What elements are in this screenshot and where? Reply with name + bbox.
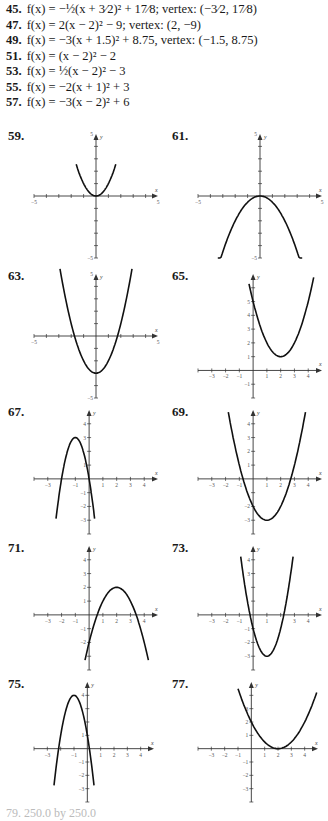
x-axis-arrow-icon	[312, 746, 318, 751]
svg-text:2: 2	[115, 482, 118, 488]
svg-text:−1: −1	[71, 752, 77, 758]
svg-text:−2: −2	[223, 373, 229, 379]
graph-69: 69.−3−2−112344321−2−3xy	[172, 404, 328, 538]
svg-text:−1: −1	[244, 381, 250, 387]
svg-text:−1: −1	[78, 759, 84, 765]
y-axis-arrow-icon	[87, 410, 92, 416]
svg-text:2: 2	[113, 752, 116, 758]
answer-45: 45.f(x) = −½(x + 3⁄2)² + 17⁄8; vertex: (…	[6, 2, 326, 18]
x-axis-arrow-icon	[316, 612, 322, 617]
svg-text:−1: −1	[242, 759, 248, 765]
parabola-curve	[228, 412, 305, 520]
x-axis-arrow-icon	[152, 194, 158, 199]
svg-text:4: 4	[247, 421, 250, 427]
svg-text:1: 1	[266, 373, 269, 379]
svg-text:−1: −1	[72, 618, 78, 624]
y-axis-arrow-icon	[85, 682, 90, 688]
svg-text:−1: −1	[80, 626, 86, 632]
x-axis-arrow-icon	[316, 194, 322, 199]
parabola-plot: −555−5xy	[8, 128, 164, 266]
svg-text:3: 3	[293, 618, 296, 624]
svg-text:−5: −5	[87, 395, 93, 401]
svg-text:−3: −3	[80, 517, 86, 523]
svg-text:4: 4	[143, 618, 146, 624]
svg-text:4: 4	[139, 752, 142, 758]
svg-text:−1: −1	[235, 752, 241, 758]
x-axis-arrow-icon	[316, 476, 322, 481]
svg-text:2: 2	[277, 752, 280, 758]
svg-text:−3: −3	[78, 786, 84, 792]
svg-text:x: x	[318, 470, 322, 476]
answer-53: 53.f(x) = ½(x − 2)² − 3	[6, 64, 326, 80]
answer-47: 47.f(x) = 2(x − 2)² − 9; vertex: (2, −9)	[6, 18, 326, 34]
svg-text:4: 4	[83, 557, 86, 563]
svg-text:3: 3	[247, 571, 250, 577]
y-axis-arrow-icon	[251, 546, 256, 552]
svg-text:3: 3	[293, 482, 296, 488]
graph-73: 73.−3−2−113443−1−2−3xy	[172, 540, 328, 674]
svg-text:4: 4	[247, 557, 250, 563]
svg-text:4: 4	[83, 421, 86, 427]
answer-51: 51.f(x) = (x − 2)² − 2	[6, 49, 326, 65]
answer-list: 45.f(x) = −½(x + 3⁄2)² + 17⁄8; vertex: (…	[6, 2, 326, 111]
svg-text:−2: −2	[80, 503, 86, 509]
svg-text:x: x	[318, 606, 322, 612]
svg-text:2: 2	[279, 482, 282, 488]
svg-text:2: 2	[83, 584, 86, 590]
svg-text:−1: −1	[72, 482, 78, 488]
svg-text:2: 2	[246, 719, 249, 725]
svg-text:−5: −5	[31, 339, 37, 345]
svg-text:−3: −3	[44, 752, 50, 758]
svg-text:−3: −3	[208, 752, 214, 758]
svg-text:1: 1	[99, 752, 102, 758]
svg-text:−2: −2	[242, 772, 248, 778]
svg-text:2: 2	[279, 373, 282, 379]
x-axis-arrow-icon	[152, 334, 158, 339]
svg-text:−2: −2	[244, 503, 250, 509]
svg-text:−2: −2	[223, 618, 229, 624]
footer-answer-79: 79. 250.0 by 250.0	[6, 806, 96, 821]
svg-text:−3: −3	[244, 653, 250, 659]
svg-text:−3: −3	[244, 517, 250, 523]
svg-text:x: x	[318, 361, 322, 367]
parabola-plot: −3−1123441−1−2−3xy	[8, 676, 164, 806]
svg-text:y: y	[263, 134, 267, 140]
svg-text:4: 4	[82, 692, 85, 698]
svg-text:1: 1	[83, 598, 86, 604]
graph-65: 65.−3−2−1123412345−1xy	[172, 268, 328, 402]
svg-text:−1: −1	[236, 482, 242, 488]
svg-text:y: y	[99, 134, 103, 140]
svg-text:−3: −3	[209, 618, 215, 624]
y-axis-arrow-icon	[94, 274, 99, 280]
svg-text:1: 1	[247, 354, 250, 360]
answer-57: 57.f(x) = −3(x − 2)² + 6	[6, 95, 326, 111]
graph-61: 61.−555−5xy	[172, 128, 328, 266]
svg-text:3: 3	[129, 618, 132, 624]
svg-text:1: 1	[247, 462, 250, 468]
svg-text:−1: −1	[80, 490, 86, 496]
svg-text:1: 1	[82, 732, 85, 738]
svg-text:3: 3	[293, 373, 296, 379]
parabola-plot: −3−11234431−1−2−3xy	[8, 404, 164, 538]
y-axis-arrow-icon	[249, 682, 254, 688]
svg-text:−1: −1	[236, 618, 242, 624]
svg-text:4: 4	[303, 752, 306, 758]
svg-text:−2: −2	[244, 639, 250, 645]
svg-text:4: 4	[247, 312, 250, 318]
svg-text:2: 2	[247, 340, 250, 346]
svg-text:−3: −3	[45, 482, 51, 488]
svg-text:1: 1	[102, 482, 105, 488]
x-axis-arrow-icon	[148, 746, 154, 751]
svg-text:y: y	[99, 274, 103, 280]
svg-text:4: 4	[307, 373, 310, 379]
parabola-plot: −555−5xy	[8, 268, 164, 402]
svg-text:1: 1	[266, 618, 269, 624]
svg-text:x: x	[314, 740, 318, 746]
svg-text:y: y	[90, 682, 94, 688]
y-axis-arrow-icon	[251, 410, 256, 416]
svg-text:5: 5	[90, 131, 93, 137]
x-axis-arrow-icon	[316, 368, 322, 373]
svg-text:−2: −2	[59, 618, 65, 624]
y-axis-arrow-icon	[94, 134, 99, 140]
svg-text:y: y	[92, 410, 96, 416]
